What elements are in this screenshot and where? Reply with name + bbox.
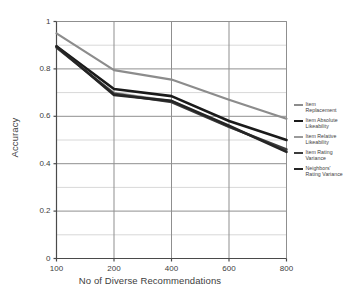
legend-swatch-icon [294, 104, 303, 106]
legend-label: ItemReplacement [306, 101, 337, 113]
legend-swatch-icon [294, 152, 303, 154]
legend-label-line2: Rating Variance [306, 171, 343, 177]
chart-figure: 00.20.40.60.81 100200400600800 No of Div… [0, 0, 356, 300]
y-tick-label: 0 [0, 254, 51, 263]
x-tick-label: 200 [94, 264, 134, 273]
legend-swatch-icon [294, 168, 303, 170]
legend-item: Item RatingVariance [294, 149, 356, 161]
legend-item: Item AbsoluteLikeability [294, 117, 356, 129]
legend-label-line2: Variance [306, 155, 333, 161]
chart-legend: ItemReplacementItem AbsoluteLikeabilityI… [294, 101, 356, 181]
x-tick-label: 100 [37, 264, 77, 273]
legend-label-line2: Likeability [306, 123, 338, 129]
x-tick-label: 400 [152, 264, 192, 273]
x-axis-title: No of Diverse Recommendations [0, 275, 300, 286]
y-tick-label: 0.8 [0, 64, 51, 73]
legend-label: Item AbsoluteLikeability [306, 117, 338, 129]
legend-label-line2: Replacement [306, 107, 337, 113]
x-tick-label: 600 [209, 264, 249, 273]
legend-label: Item RelativeLikeability [306, 133, 337, 145]
legend-label-line1: Item Rating [306, 149, 333, 155]
legend-label: Neighbors'Rating Variance [306, 165, 343, 177]
y-tick-label: 1 [0, 17, 51, 26]
legend-swatch-icon [294, 136, 303, 138]
y-tick-label: 0.2 [0, 206, 51, 215]
legend-item: Item RelativeLikeability [294, 133, 356, 145]
legend-item: Neighbors'Rating Variance [294, 165, 356, 177]
legend-label-line2: Likeability [306, 139, 337, 145]
legend-label: Item RatingVariance [306, 149, 333, 161]
x-tick-label: 800 [267, 264, 307, 273]
legend-swatch-icon [294, 120, 303, 122]
axis-tick-marks [54, 22, 287, 262]
legend-item: ItemReplacement [294, 101, 356, 113]
y-axis-title: Accuracy [9, 98, 20, 178]
